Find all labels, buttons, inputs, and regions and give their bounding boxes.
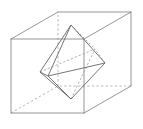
diagram-background	[0, 0, 143, 129]
figure-container	[0, 0, 143, 129]
octahedron-in-cube-diagram	[0, 0, 143, 129]
